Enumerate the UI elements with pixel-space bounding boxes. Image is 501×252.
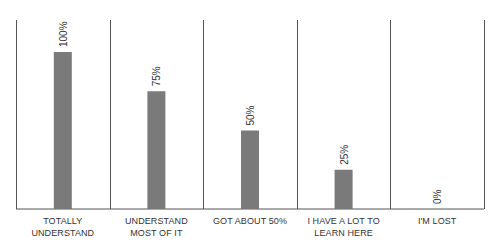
value-label: 50% <box>245 105 256 125</box>
category-label-line: MOST OF IT <box>110 227 204 239</box>
category-label-line: UNDERSTAND <box>110 215 204 227</box>
category-label-line: GOT ABOUT 50% <box>203 215 297 227</box>
value-label: 25% <box>339 145 350 165</box>
category-label-line: I HAVE A LOT TO <box>297 215 391 227</box>
category-label: GOT ABOUT 50% <box>203 215 297 227</box>
category-label: UNDERSTANDMOST OF IT <box>110 215 204 239</box>
bar <box>335 170 353 209</box>
category-label-line: I'M LOST <box>390 215 484 227</box>
value-label: 0% <box>432 189 443 204</box>
category-label: TOTALLYUNDERSTAND <box>16 215 110 239</box>
value-label: 75% <box>151 66 162 86</box>
bar <box>147 91 165 209</box>
category-label-line: TOTALLY <box>16 215 110 227</box>
category-label-line: UNDERSTAND <box>16 227 110 239</box>
category-label-line: LEARN HERE <box>297 227 391 239</box>
value-label: 100% <box>58 21 69 47</box>
bar <box>54 52 72 209</box>
bar <box>241 131 259 210</box>
category-label: I'M LOST <box>390 215 484 227</box>
category-label: I HAVE A LOT TOLEARN HERE <box>297 215 391 239</box>
